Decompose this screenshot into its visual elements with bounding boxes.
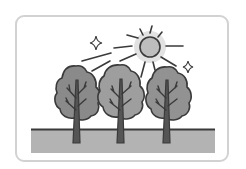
sparkle-icon bbox=[90, 36, 102, 50]
sparkle-icon bbox=[183, 61, 193, 73]
trees-sun-illustration bbox=[0, 0, 246, 169]
